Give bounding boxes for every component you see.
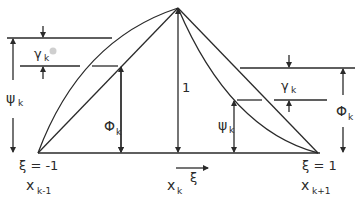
left-gamma-sub: k <box>44 53 50 63</box>
left-phi-sub: k <box>116 127 122 137</box>
center-xi-label: ξ <box>190 170 197 185</box>
right-x-sub: k+1 <box>312 186 330 196</box>
left-psi-sub: k <box>18 98 24 108</box>
linear-hat-right <box>178 8 318 153</box>
diagram-svg: 1 γ k ψ k Φ k γ k Φ k ψ k ξ = -1 x k-1 ξ… <box>0 0 357 202</box>
right-psi-label: ψ <box>218 117 227 133</box>
smudge-mark <box>50 48 57 55</box>
left-phi-label: Φ <box>104 118 115 134</box>
right-x-label: x <box>301 177 309 193</box>
left-x-label: x <box>26 177 34 193</box>
left-gamma-label: γ <box>34 46 42 61</box>
center-x-sub: k <box>177 186 183 196</box>
center-x-label: x <box>167 177 175 193</box>
peak-value-label: 1 <box>182 80 190 95</box>
right-phi-sub: k <box>348 112 354 122</box>
right-gamma-sub: k <box>291 85 297 95</box>
left-x-sub: k-1 <box>37 186 51 196</box>
right-gamma-label: γ <box>281 78 289 93</box>
basis-function-diagram: 1 γ k ψ k Φ k γ k Φ k ψ k ξ = -1 x k-1 ξ… <box>0 0 357 202</box>
left-xi-label: ξ = -1 <box>19 158 58 173</box>
right-xi-label: ξ = 1 <box>302 158 337 173</box>
right-phi-label: Φ <box>336 103 347 119</box>
left-psi-label: ψ <box>6 90 15 106</box>
right-psi-sub: k <box>229 125 235 135</box>
